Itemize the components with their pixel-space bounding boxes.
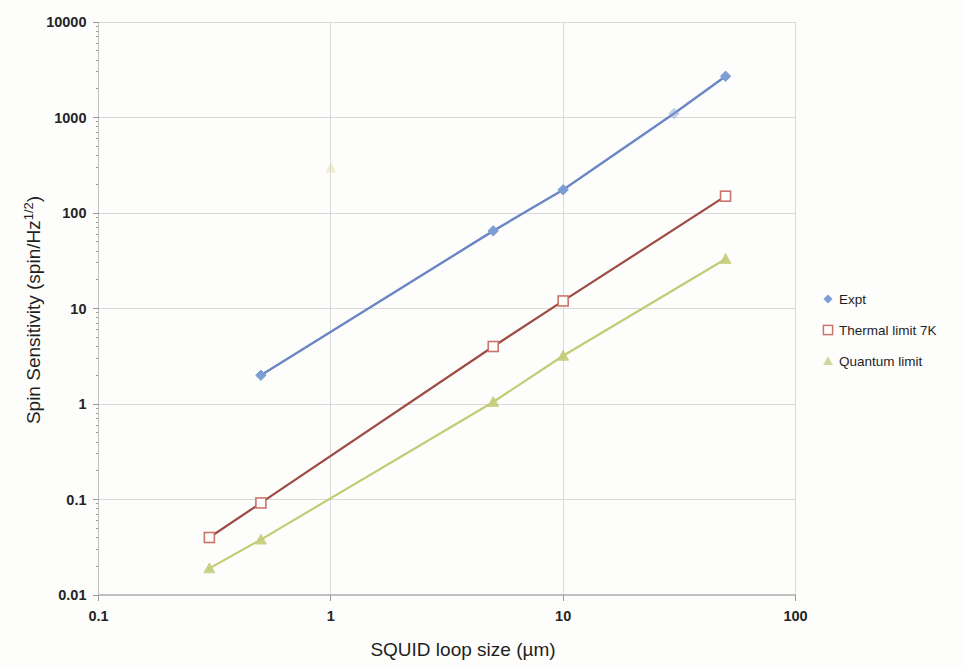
legend-square-icon	[823, 325, 832, 334]
legend-label: Quantum limit	[839, 354, 923, 369]
y-axis-title-base: Spin Sensitivity (spin/Hz	[23, 220, 44, 424]
x-tick-label: 1	[327, 608, 335, 624]
y-tick-label: 0.1	[66, 492, 86, 508]
data-point	[558, 296, 568, 306]
square-marker-icon	[721, 191, 731, 201]
x-tick-label: 10	[555, 608, 571, 624]
data-point	[721, 191, 731, 201]
x-axis-title: SQUID loop size (µm)	[370, 639, 555, 660]
square-marker-icon	[558, 296, 568, 306]
legend-item-2: Thermal limit 7K	[823, 323, 936, 338]
square-marker-icon	[256, 498, 266, 508]
y-axis-title-group: Spin Sensitivity (spin/Hz1/2)	[21, 196, 44, 424]
y-tick-label: 100	[62, 205, 86, 221]
data-point	[488, 342, 498, 352]
legend-label: Expt	[839, 292, 866, 307]
x-tick-label: 100	[783, 608, 807, 624]
log-log-chart: 0.010.11101001000100000.1110100 ExptTher…	[0, 0, 962, 668]
y-tick-label: 1000	[54, 110, 86, 126]
data-point	[204, 533, 214, 543]
y-tick-label: 0.01	[58, 587, 86, 603]
data-point	[256, 498, 266, 508]
y-axis-title-exponent: 1/2	[21, 202, 36, 220]
chart-figure: 0.010.11101001000100000.1110100 ExptTher…	[0, 0, 962, 668]
legend-item-3: Quantum limit	[823, 354, 922, 369]
square-marker-icon	[488, 342, 498, 352]
x-tick-label: 0.1	[88, 608, 108, 624]
y-axis-title-tail: )	[23, 196, 44, 202]
y-tick-label: 10	[70, 301, 86, 317]
y-tick-label: 1	[78, 396, 86, 412]
chart-background	[0, 0, 962, 668]
legend-label: Thermal limit 7K	[839, 323, 937, 338]
y-tick-label: 10000	[46, 14, 86, 30]
square-marker-icon	[204, 533, 214, 543]
y-axis-title: Spin Sensitivity (spin/Hz1/2)	[21, 196, 44, 424]
